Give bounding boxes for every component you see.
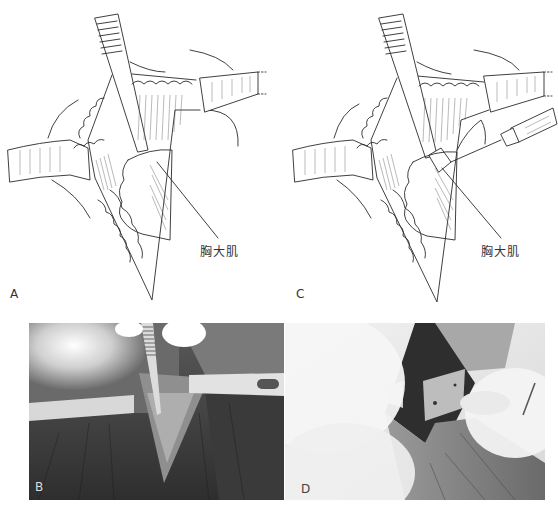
surgical-field-illustration-a (0, 0, 279, 310)
surgical-photo-b (29, 323, 284, 500)
panel-label-c: C (296, 288, 304, 300)
panel-label-b: B (35, 481, 43, 493)
panel-d-photograph: D (285, 323, 545, 500)
panel-c-illustration: 胸大肌 C (279, 0, 558, 310)
panel-a-illustration: 胸大肌 A (0, 0, 279, 310)
panel-label-a: A (10, 288, 18, 300)
panel-b-photograph: B (29, 323, 284, 500)
surgical-field-illustration-c (279, 0, 558, 310)
callout-pectoralis-major-a: 胸大肌 (200, 246, 239, 258)
surgical-photo-d (285, 323, 545, 500)
callout-pectoralis-major-c: 胸大肌 (481, 246, 520, 258)
panel-label-d: D (301, 483, 310, 495)
